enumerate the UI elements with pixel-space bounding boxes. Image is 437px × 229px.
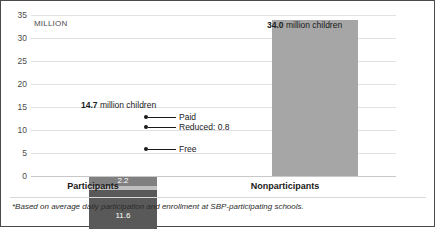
callout-free-line [148, 149, 176, 150]
plot-area: 2.2 11.6 [31, 15, 396, 176]
callout-paid-label: Paid [179, 112, 196, 122]
footnote-divider [10, 197, 426, 198]
callout-free-label: Free [179, 144, 196, 154]
category-label-participants: Participants [59, 181, 127, 191]
x-axis-baseline [31, 176, 396, 177]
y-axis-labels: 35 30 25 20 15 10 5 0 [1, 15, 27, 176]
y-tick-10: 10 [1, 126, 27, 134]
callout-reduced-label: Reduced: 0.8 [179, 122, 230, 132]
y-tick-15: 15 [1, 103, 27, 111]
bar-caption-participants: 14.7 million children [81, 100, 156, 110]
callout-reduced-line [148, 127, 176, 128]
bar-nonparticipants[interactable] [272, 20, 358, 176]
footnote-text: *Based on average daily participation an… [12, 202, 304, 211]
chart-figure: 35 30 25 20 15 10 5 0 MILLION 2.2 11.6 [0, 0, 435, 227]
bar-caption-participants-value: 14.7 [81, 100, 98, 110]
bar-caption-participants-suffix: million children [100, 100, 156, 110]
gridline-35 [31, 15, 396, 16]
bar-caption-nonparticipants-suffix: million children [286, 20, 342, 30]
category-label-nonparticipants: Nonparticipants [242, 181, 328, 191]
y-tick-35: 35 [1, 11, 27, 19]
callout-paid-line [148, 117, 176, 118]
y-tick-5: 5 [1, 149, 27, 157]
y-tick-25: 25 [1, 57, 27, 65]
bar-segment-free-value: 11.6 [89, 212, 157, 220]
y-tick-0: 0 [1, 172, 27, 180]
bar-caption-nonparticipants: 34.0 million children [267, 20, 342, 30]
y-tick-30: 30 [1, 34, 27, 42]
bar-caption-nonparticipants-value: 34.0 [267, 20, 284, 30]
y-tick-20: 20 [1, 80, 27, 88]
